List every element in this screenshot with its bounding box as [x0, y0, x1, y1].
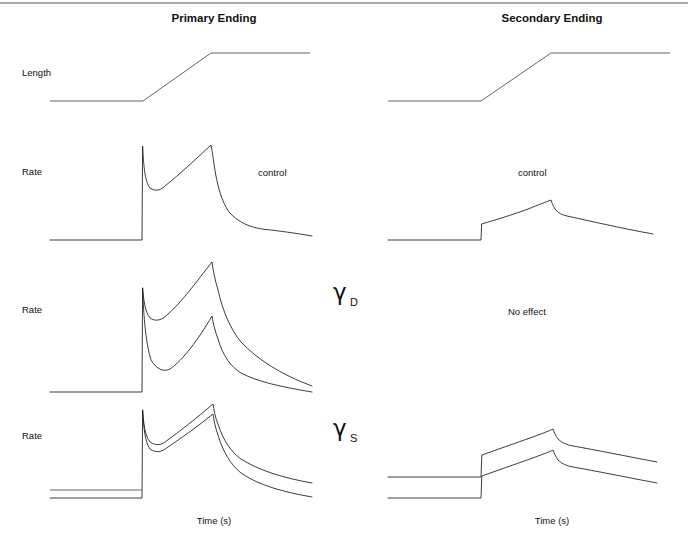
column-title-secondary: Secondary Ending [502, 12, 603, 24]
trace-layer [50, 53, 670, 498]
spindle-response-figure: Primary EndingSecondary Ending LengthRat… [0, 0, 688, 551]
gamma-symbol-d: γ [333, 279, 347, 305]
trace-rate-primary-gammaD-upper [143, 262, 312, 386]
trace-rate-secondary-control [388, 200, 653, 240]
row-label-rate-1: Rate [22, 166, 42, 177]
gamma-subscript-d: D [350, 296, 358, 308]
row-label-length-0: Length [22, 67, 51, 78]
condition-symbol-layer: γDγS [333, 279, 358, 444]
gamma-symbol-s: γ [333, 415, 347, 441]
column-title-primary: Primary Ending [172, 12, 257, 24]
annotation-control-0: control [258, 167, 287, 178]
trace-rate-primary-gammaS-upper [143, 404, 312, 483]
row-label-rate-3: Rate [22, 430, 42, 441]
x-axis-label-secondary: Time (s) [535, 515, 569, 526]
trace-length-primary [50, 53, 310, 101]
annotation-control-1: control [518, 167, 547, 178]
column-titles: Primary EndingSecondary Ending [172, 12, 603, 24]
annotation-layer: controlcontrolNo effect [258, 167, 547, 317]
trace-rate-primary-gammaS-lower [50, 410, 312, 498]
trace-rate-primary-gammaD-lower [50, 288, 312, 392]
x-axis-label-primary: Time (s) [197, 515, 231, 526]
trace-rate-secondary-gammaS-upper [388, 429, 657, 477]
gamma-subscript-s: S [350, 432, 357, 444]
annotation-no-effect-2: No effect [508, 306, 546, 317]
trace-rate-secondary-gammaS-lower [388, 450, 657, 498]
trace-length-secondary [388, 53, 670, 101]
row-labels: LengthRateRateRate [22, 67, 51, 441]
trace-rate-primary-control [50, 145, 312, 240]
axis-label-layer: Time (s)Time (s) [197, 515, 569, 526]
row-label-rate-2: Rate [22, 304, 42, 315]
